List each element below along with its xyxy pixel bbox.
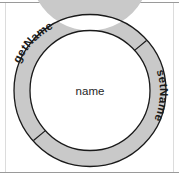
- center-label-name: name: [76, 85, 105, 97]
- figure-root: getName setName name: [0, 0, 179, 186]
- encapsulation-diagram: getName setName name: [0, 0, 179, 186]
